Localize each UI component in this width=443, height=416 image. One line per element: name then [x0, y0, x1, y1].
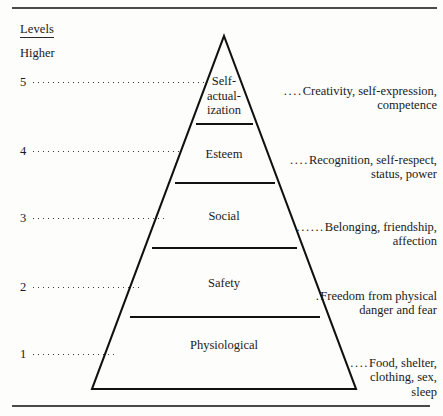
- description-level-2: .Freedom from physical danger and fear: [316, 274, 437, 318]
- level-number-2: 2: [20, 281, 26, 294]
- tier-label-esteem: Esteem: [206, 147, 243, 162]
- tier-label-self-actualization: Self- actual- ization: [207, 74, 241, 118]
- bottom-border-rule: [12, 405, 430, 407]
- desc-dots-3: ......: [297, 220, 325, 234]
- tier-label-safety: Safety: [208, 276, 240, 291]
- desc-text-1: Food, shelter, clothing, sex, sleep: [369, 356, 437, 399]
- level-number-4: 4: [20, 145, 26, 158]
- desc-text-2: Freedom from physical danger and fear: [320, 289, 437, 318]
- tier-label-social: Social: [208, 209, 239, 224]
- level-row-2: 2: [20, 281, 141, 294]
- level-row-5: 5: [20, 76, 208, 89]
- top-border-rule: [12, 7, 437, 9]
- level-row-1: 1: [20, 348, 115, 361]
- description-level-5: ....Creativity, self-expression, compete…: [284, 69, 437, 113]
- desc-text-5: Creativity, self-expression, competence: [303, 84, 437, 113]
- description-level-4: ....Recognition, self-respect, status, p…: [290, 138, 437, 182]
- level-number-3: 3: [20, 212, 26, 225]
- leader-line-5: [31, 82, 208, 83]
- level-row-3: 3: [20, 212, 167, 225]
- desc-dots-5: ....: [284, 84, 303, 98]
- desc-dots-1: ....: [350, 356, 369, 370]
- desc-dots-4: ....: [290, 153, 309, 167]
- leader-line-3: [31, 218, 167, 219]
- desc-text-4: Recognition, self-respect, status, power: [309, 153, 437, 182]
- level-number-1: 1: [20, 348, 26, 361]
- leader-line-4: [31, 151, 183, 152]
- tier-label-physiological: Physiological: [190, 338, 258, 353]
- description-level-1: ....Food, shelter, clothing, sex, sleep: [350, 341, 437, 399]
- levels-heading: Levels: [20, 22, 54, 38]
- leader-line-2: [31, 287, 141, 288]
- higher-label: Higher: [20, 46, 55, 60]
- level-row-4: 4: [20, 145, 183, 158]
- maslow-hierarchy-figure: Levels Higher 5 4 3 2 1 Self- actual- iz…: [0, 0, 443, 416]
- desc-text-3: Belonging, friendship, affection: [325, 220, 437, 249]
- description-level-3: ......Belonging, friendship, affection: [297, 205, 438, 249]
- level-number-5: 5: [20, 76, 26, 89]
- leader-line-1: [31, 354, 115, 355]
